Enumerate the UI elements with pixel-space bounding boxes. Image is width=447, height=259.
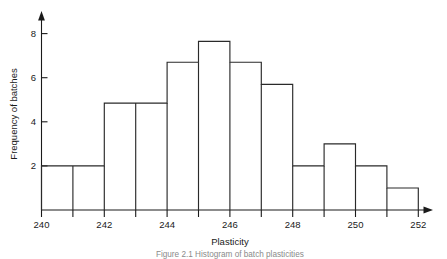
y-axis-title: Frequency of batches xyxy=(8,68,19,160)
histogram-bar xyxy=(167,62,198,210)
histogram-bar xyxy=(42,166,73,210)
x-tick-label-240: 240 xyxy=(34,219,50,230)
histogram-bar xyxy=(356,166,387,210)
histogram-bar xyxy=(387,188,418,210)
x-tick-label-252: 252 xyxy=(410,219,426,230)
histogram-bar xyxy=(136,103,167,210)
figure-caption: Figure 2.1 Histogram of batch plasticiti… xyxy=(156,250,304,259)
x-tick-label-250: 250 xyxy=(348,219,364,230)
histogram-bar xyxy=(199,41,230,210)
histogram-bar xyxy=(73,166,104,210)
histogram-bar xyxy=(324,144,355,210)
histogram-bar xyxy=(104,103,135,210)
x-tick-label-248: 248 xyxy=(285,219,301,230)
histogram-chart: 2 4 6 8 240 242 244 246 248 xyxy=(0,0,447,259)
x-axis-title: Plasticity xyxy=(211,236,249,247)
x-tick-label-242: 242 xyxy=(96,219,112,230)
histogram-bar xyxy=(261,84,292,210)
figure-container: 2 4 6 8 240 242 244 246 248 xyxy=(0,0,447,259)
y-tick-label-4: 4 xyxy=(31,116,36,127)
x-tick-label-244: 244 xyxy=(159,219,175,230)
y-tick-label-6: 6 xyxy=(31,72,36,83)
histogram-bar xyxy=(230,62,261,210)
y-tick-label-2: 2 xyxy=(31,160,36,171)
y-tick-label-8: 8 xyxy=(31,28,36,39)
histogram-bar xyxy=(293,166,324,210)
x-tick-label-246: 246 xyxy=(222,219,238,230)
